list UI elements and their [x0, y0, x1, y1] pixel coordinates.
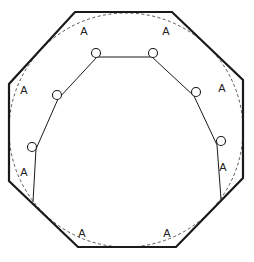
region-label: A [218, 82, 226, 94]
marker-circle-icon [53, 91, 62, 100]
marker-circle-icon [192, 88, 201, 97]
marker-circle-icon [28, 143, 37, 152]
region-label: A [80, 25, 88, 37]
chain-polyline [33, 57, 221, 202]
region-label: A [219, 161, 227, 173]
marker-circle-icon [149, 49, 158, 58]
region-label: A [163, 227, 171, 239]
marker-circle-icon [217, 137, 226, 146]
octagon-diagram: AAAAAAAA [0, 0, 254, 262]
region-label: A [78, 227, 86, 239]
region-label: A [162, 25, 170, 37]
marker-circle-icon [92, 49, 101, 58]
region-label: A [20, 166, 28, 178]
region-label: A [20, 84, 28, 96]
